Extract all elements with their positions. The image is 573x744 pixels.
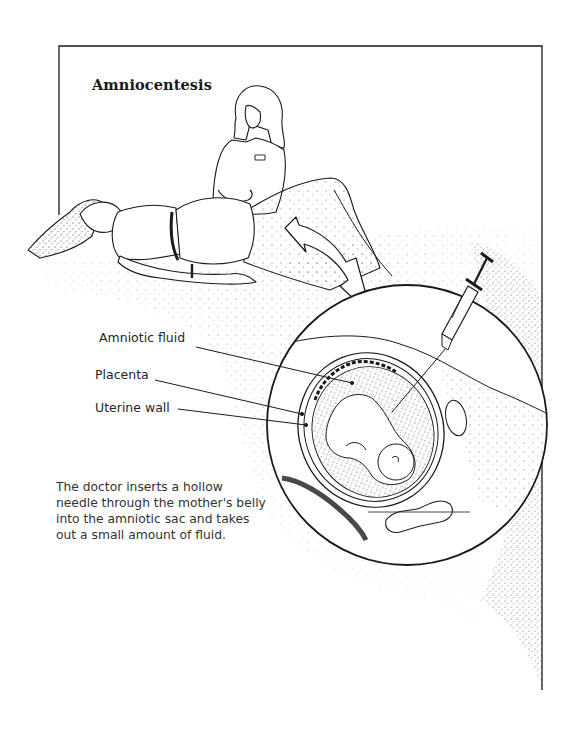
label-amniotic-fluid: Amniotic fluid — [99, 330, 185, 345]
amniocentesis-illustration: Amniocentesis Amniotic fluid Placenta Ut… — [0, 0, 573, 744]
figure-caption: The doctor inserts a hollow needle throu… — [56, 479, 256, 543]
illustration-canvas — [0, 0, 573, 744]
uterus-cross-section-inset — [267, 285, 548, 565]
caption-line: The doctor inserts a hollow — [56, 479, 256, 495]
label-placenta: Placenta — [95, 367, 149, 382]
figure-title: Amniocentesis — [92, 76, 212, 93]
caption-line: into the amniotic sac and takes — [56, 511, 256, 527]
caption-line: needle through the mother's belly — [56, 495, 256, 511]
label-uterine-wall: Uterine wall — [95, 400, 170, 415]
caption-line: out a small amount of fluid. — [56, 527, 256, 543]
